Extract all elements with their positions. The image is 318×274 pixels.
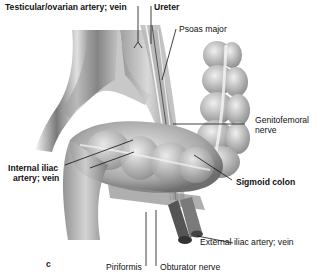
pelvic-anatomy-illustration [0,0,318,274]
label-testicular-ovarian-vessels: Testicular/ovarian artery; vein [5,2,127,12]
label-internal-iliac-line2: artery; vein [13,173,59,183]
panel-letter: c [46,259,51,269]
label-genitofemoral-nerve-line1: Genitofemoral [255,115,309,125]
label-genitofemoral-nerve-line2: nerve [255,125,277,135]
label-sigmoid-colon: Sigmoid colon [236,177,295,187]
anatomy-figure: Testicular/ovarian artery; vein Ureter P… [0,0,318,274]
label-piriformis: Piriformis [106,262,142,272]
label-external-iliac-vessels: External iliac artery; vein [200,237,294,247]
label-psoas-major: Psoas major [179,24,227,34]
label-ureter: Ureter [154,2,179,12]
label-obturator-nerve: Obturator nerve [160,262,220,272]
label-internal-iliac-line1: Internal iliac [8,163,58,173]
